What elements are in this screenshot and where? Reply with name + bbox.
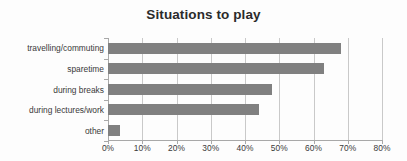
- x-axis-tick-mark: [279, 141, 280, 144]
- x-axis-tick-mark: [108, 141, 109, 144]
- bar: [108, 104, 259, 115]
- plot-area: [108, 38, 382, 141]
- bar: [108, 125, 120, 136]
- bar-row: [108, 120, 382, 141]
- y-axis-tick-label: sparetime: [0, 64, 104, 74]
- y-axis-tick-label: travelling/commuting: [0, 43, 104, 53]
- x-axis-tick-mark: [177, 141, 178, 144]
- x-axis-tick-label: 80%: [362, 143, 402, 153]
- bar: [108, 63, 324, 74]
- gridline: [382, 38, 383, 141]
- x-axis-tick-mark: [245, 141, 246, 144]
- x-axis-tick-mark: [211, 141, 212, 144]
- y-axis-tick-mark: [104, 141, 108, 142]
- bar: [108, 43, 341, 54]
- x-axis-tick-labels: 0%10%20%30%40%50%60%70%80%: [0, 143, 407, 157]
- x-axis-tick-mark: [142, 141, 143, 144]
- x-axis-tick-mark: [314, 141, 315, 144]
- y-axis-tick-mark: [104, 38, 108, 39]
- y-axis-tick-mark: [104, 59, 108, 60]
- y-axis-tick-label: during breaks: [0, 85, 104, 95]
- x-axis-tick-mark: [382, 141, 383, 144]
- y-axis-tick-mark: [104, 120, 108, 121]
- y-axis-category-labels: travelling/commutingsparetimeduring brea…: [0, 38, 104, 141]
- bar-row: [108, 38, 382, 59]
- bar-chart: Situations to play travelling/commutings…: [0, 0, 407, 161]
- chart-title: Situations to play: [0, 7, 407, 22]
- bar-row: [108, 100, 382, 121]
- bar-row: [108, 79, 382, 100]
- bar: [108, 84, 272, 95]
- bar-row: [108, 59, 382, 80]
- x-axis-tick-mark: [348, 141, 349, 144]
- y-axis-tick-label: during lectures/work: [0, 105, 104, 115]
- y-axis-tick-label: other: [0, 126, 104, 136]
- y-axis-tick-mark: [104, 100, 108, 101]
- y-axis-tick-mark: [104, 79, 108, 80]
